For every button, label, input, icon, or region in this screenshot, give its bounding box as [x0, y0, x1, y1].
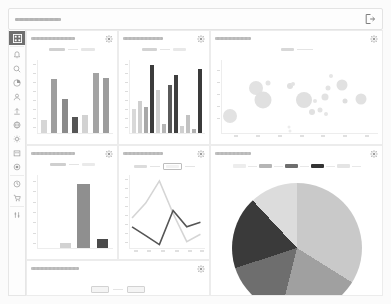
legend-divider	[352, 166, 361, 167]
chart-legend	[27, 286, 209, 293]
bubble	[255, 91, 272, 108]
panel-header	[119, 31, 209, 46]
legend-swatch[interactable]	[134, 165, 147, 168]
bubble	[309, 109, 315, 115]
bar	[103, 78, 109, 133]
legend-swatch	[166, 165, 179, 168]
legend-swatch[interactable]	[285, 164, 298, 168]
legend-swatch[interactable]	[311, 164, 324, 168]
gear-icon[interactable]	[197, 265, 205, 273]
bubble	[336, 80, 347, 91]
bar	[162, 124, 166, 133]
bubble	[355, 94, 366, 105]
gear-icon[interactable]	[197, 35, 205, 43]
panel-strip	[26, 260, 210, 296]
bar	[60, 243, 71, 248]
bubble	[266, 80, 271, 85]
y-axis	[129, 60, 130, 134]
legend-divider	[274, 166, 283, 167]
panel-header	[27, 261, 209, 276]
bubble	[289, 130, 292, 133]
panel-header	[27, 31, 117, 46]
bar	[72, 117, 78, 133]
legend-swatch[interactable]	[337, 164, 350, 168]
panel-pie	[210, 145, 383, 296]
bubble	[317, 107, 322, 112]
panel-bar-2	[118, 30, 210, 145]
panel-header	[27, 146, 117, 161]
pie-chart	[232, 183, 362, 296]
x-axis	[129, 133, 205, 134]
panel-header	[211, 31, 382, 46]
bar	[156, 90, 160, 133]
gear-icon[interactable]	[105, 150, 113, 158]
bar-series	[131, 60, 203, 133]
panel-bar-1	[26, 30, 118, 145]
sidebar-item-settings[interactable]	[9, 160, 25, 174]
legend-divider	[326, 166, 335, 167]
bubble	[313, 99, 317, 103]
sidebar-item-user[interactable]	[9, 90, 25, 104]
sidebar-item-globe[interactable]	[9, 118, 25, 132]
bar	[132, 109, 136, 133]
dashboard-app	[0, 0, 391, 304]
legend-swatch-selected[interactable]	[163, 163, 182, 170]
gear-icon[interactable]	[105, 35, 113, 43]
panel-body	[211, 161, 382, 295]
bubble	[325, 86, 330, 91]
legend-divider	[160, 49, 170, 50]
panel-bubble	[210, 30, 383, 145]
panel-line	[118, 145, 210, 260]
panel-body	[27, 276, 209, 295]
bar	[97, 239, 108, 248]
chart-legend	[119, 163, 209, 170]
chart-legend	[211, 48, 382, 51]
bar	[150, 65, 154, 133]
bar	[41, 120, 47, 133]
panel-body	[119, 161, 209, 259]
bubble	[296, 92, 312, 108]
panel-bar-3	[26, 145, 118, 260]
bubble	[223, 109, 237, 123]
sidebar-item-cart[interactable]	[9, 191, 25, 205]
sidebar-item-gear[interactable]	[9, 132, 25, 146]
legend-swatch[interactable]	[259, 164, 272, 168]
sidebar-item-search[interactable]	[9, 62, 25, 76]
panel-title-placeholder	[31, 152, 75, 155]
legend-swatch[interactable]	[127, 286, 145, 293]
legend-swatch	[173, 48, 186, 51]
bar	[180, 126, 184, 133]
legend-swatch[interactable]	[233, 164, 246, 168]
sidebar-item-clock[interactable]	[9, 177, 25, 191]
legend-divider	[113, 289, 123, 290]
app-title-placeholder	[15, 18, 61, 21]
bubble	[321, 94, 328, 101]
legend-swatch	[281, 48, 294, 51]
bar	[138, 101, 142, 133]
legend-swatch	[49, 48, 65, 51]
panel-title-placeholder	[215, 37, 251, 40]
plot-area	[37, 175, 113, 249]
sidebar-item-upload[interactable]	[9, 104, 25, 118]
legend-divider	[297, 49, 313, 50]
sidebar-item-chart[interactable]	[9, 76, 25, 90]
line-series	[129, 175, 205, 249]
chart-legend	[27, 48, 117, 51]
sidebar-item-dashboard[interactable]	[9, 31, 25, 45]
gear-icon[interactable]	[370, 35, 378, 43]
legend-swatch[interactable]	[91, 286, 109, 293]
gear-icon[interactable]	[370, 150, 378, 158]
sidebar-divider	[10, 175, 24, 176]
sidebar-item-bell[interactable]	[9, 48, 25, 62]
sidebar-item-sliders[interactable]	[9, 208, 25, 222]
sidebar-divider	[10, 206, 24, 207]
sidebar-divider	[10, 46, 24, 47]
panel-body	[27, 46, 117, 144]
logout-icon[interactable]	[364, 13, 376, 25]
panel-title-placeholder	[31, 37, 75, 40]
panel-header	[211, 146, 382, 161]
top-bar	[8, 8, 383, 30]
gear-icon[interactable]	[197, 150, 205, 158]
sidebar-item-building[interactable]	[9, 146, 25, 160]
bar	[82, 115, 88, 133]
